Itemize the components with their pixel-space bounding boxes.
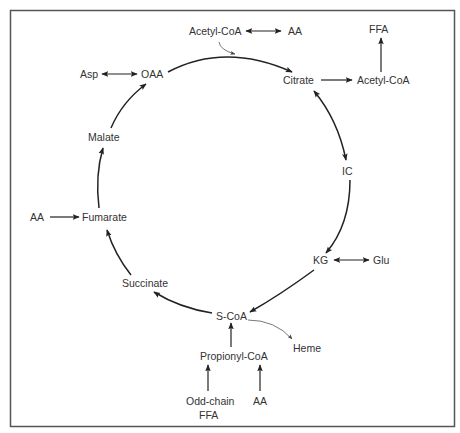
label-citrate: Citrate bbox=[283, 74, 314, 86]
arrow-ic-to-kg bbox=[326, 180, 350, 253]
label-scoa: S-CoA bbox=[216, 310, 247, 322]
label-aa-top: AA bbox=[288, 25, 302, 37]
label-oddchain-ffa: FFA bbox=[199, 409, 218, 421]
label-glu: Glu bbox=[373, 254, 390, 266]
label-aa-bottom: AA bbox=[253, 395, 267, 407]
arrow-scoa-to-succinate bbox=[154, 292, 212, 313]
tca-cycle-diagram: Acetyl-CoA AA FFA Citrate Acetyl-CoA IC … bbox=[0, 0, 460, 433]
arrow-citrate-ic bbox=[314, 91, 346, 160]
label-ic: IC bbox=[342, 165, 353, 177]
label-aa-left: AA bbox=[30, 211, 44, 223]
label-fumarate: Fumarate bbox=[82, 211, 127, 223]
label-succinate: Succinate bbox=[122, 277, 168, 289]
arrow-fumarate-to-malate bbox=[98, 148, 103, 208]
label-malate: Malate bbox=[88, 131, 120, 143]
label-oaa: OAA bbox=[141, 68, 163, 80]
diagram-frame bbox=[11, 11, 455, 427]
label-asp: Asp bbox=[80, 68, 98, 80]
arrow-scoa-to-heme bbox=[248, 320, 292, 339]
arrow-malate-to-oaa bbox=[111, 84, 146, 128]
label-acetylcoa-in: Acetyl-CoA bbox=[189, 25, 242, 37]
arrow-oaa-to-citrate bbox=[168, 57, 292, 72]
label-propionylcoa: Propionyl-CoA bbox=[200, 350, 268, 362]
arrow-acetylcoa-feed bbox=[219, 42, 235, 54]
label-heme: Heme bbox=[293, 342, 321, 354]
label-oddchain: Odd-chain bbox=[186, 395, 235, 407]
label-acetylcoa-out: Acetyl-CoA bbox=[357, 74, 410, 86]
arrow-succinate-to-fumarate bbox=[107, 230, 131, 275]
label-ffa-top: FFA bbox=[369, 23, 388, 35]
arrow-kg-to-scoa bbox=[250, 270, 314, 312]
label-kg: KG bbox=[313, 254, 328, 266]
